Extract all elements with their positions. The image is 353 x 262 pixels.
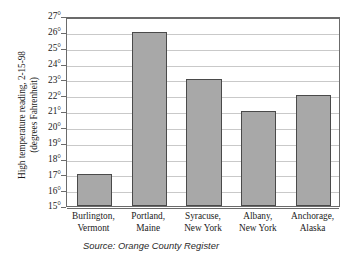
x-axis-label: Anchorage,Alaska	[279, 210, 347, 235]
y-tick-label-19: 19°	[31, 139, 61, 148]
gridline-27	[67, 18, 339, 19]
y-tick-label-21: 21°	[31, 107, 61, 116]
bar-chart-figure: High temperature reading, 2-15-98 (degre…	[0, 0, 353, 262]
y-tick-label-26: 26°	[31, 28, 61, 37]
y-tick-label-18: 18°	[31, 155, 61, 164]
y-tick-label-24: 24°	[31, 60, 61, 69]
bar	[186, 79, 221, 206]
y-tick-label-16: 16°	[31, 187, 61, 196]
source-note: Source: Orange County Register	[83, 240, 219, 251]
y-tick-label-23: 23°	[31, 76, 61, 85]
bar	[77, 174, 112, 206]
gridline-25	[67, 50, 339, 51]
y-tick-label-25: 25°	[31, 44, 61, 53]
y-tick-label-22: 22°	[31, 92, 61, 101]
bar	[132, 32, 167, 206]
y-tick-label-27: 27°	[31, 12, 61, 21]
gridline-26	[67, 34, 339, 35]
bar	[241, 111, 276, 206]
plot-inner	[67, 18, 339, 206]
gridline-15	[67, 208, 339, 209]
y-tick-label-17: 17°	[31, 171, 61, 180]
plot-area	[66, 17, 340, 207]
y-tick-label-20: 20°	[31, 123, 61, 132]
x-axis-label-line: Anchorage,	[279, 210, 347, 222]
y-axis-title-line-1: High temperature reading, 2-15-98	[17, 20, 29, 210]
x-axis-label-line: Alaska	[279, 222, 347, 234]
x-axis-category-labels: Burlington,VermontPortland,MaineSyracuse…	[66, 210, 340, 240]
bar	[296, 95, 331, 206]
y-tick-label-15: 15°	[31, 202, 61, 211]
y-tick-mark-15	[61, 207, 66, 208]
gridline-24	[67, 66, 339, 67]
